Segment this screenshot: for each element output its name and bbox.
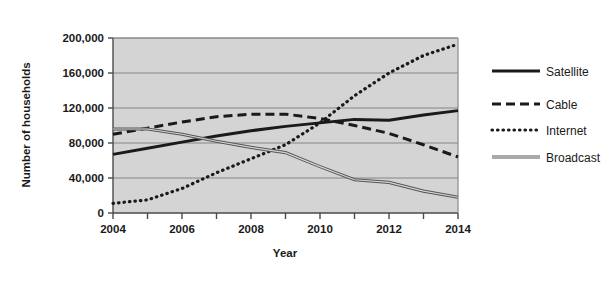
- chart-legend: SatelliteCableInternetBroadcast: [492, 65, 601, 165]
- y-tick-label: 160,000: [62, 67, 104, 79]
- legend-item-satellite[interactable]: Satellite: [492, 65, 589, 79]
- y-tick-label: 0: [98, 207, 104, 219]
- y-tick-label: 120,000: [62, 102, 104, 114]
- y-axis-title: Number of households: [20, 62, 32, 187]
- line-chart: 040,00080,000120,000160,000200,000 20042…: [0, 0, 610, 282]
- chart-container: 040,00080,000120,000160,000200,000 20042…: [0, 0, 610, 282]
- y-tick-label: 200,000: [62, 32, 104, 44]
- legend-item-broadcast[interactable]: Broadcast: [492, 151, 601, 165]
- legend-item-internet[interactable]: Internet: [492, 124, 587, 138]
- x-tick-label: 2006: [169, 223, 195, 235]
- legend-label: Cable: [546, 98, 578, 112]
- legend-label: Internet: [546, 124, 587, 138]
- y-tick-label: 40,000: [69, 172, 104, 184]
- legend-label: Satellite: [546, 65, 589, 79]
- x-tick-label: 2012: [376, 223, 402, 235]
- legend-label: Broadcast: [546, 151, 601, 165]
- x-tick-label: 2008: [238, 223, 264, 235]
- x-axis-title: Year: [273, 247, 298, 259]
- y-tick-label: 80,000: [69, 137, 104, 149]
- legend-item-cable[interactable]: Cable: [492, 98, 578, 112]
- x-tick-label: 2014: [445, 223, 471, 235]
- x-tick-label: 2010: [307, 223, 333, 235]
- x-tick-label: 2004: [100, 223, 126, 235]
- y-axis-ticks: 040,00080,000120,000160,000200,000: [62, 32, 113, 219]
- x-axis-ticks: 200420062008201020122014: [100, 213, 471, 235]
